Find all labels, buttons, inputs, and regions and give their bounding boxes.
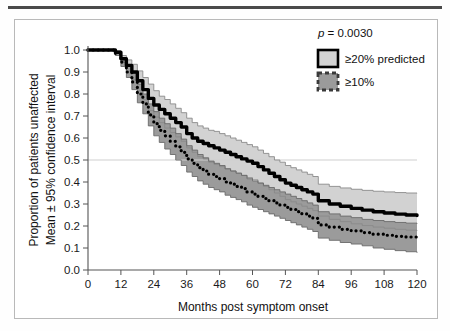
x-tick-label: 108: [375, 278, 394, 290]
x-tick-label: 48: [213, 278, 226, 290]
y-axis-title-line1: Proportion of patients unaffected: [27, 73, 41, 246]
y-tick-label: 0.1: [64, 242, 80, 254]
x-tick-label: 84: [312, 278, 325, 290]
p-value-number: = 0.0030: [324, 27, 372, 39]
y-tick-label: 0.7: [64, 110, 80, 122]
x-tick-label: 36: [180, 278, 193, 290]
figure-root: 0.00.10.20.30.40.50.60.70.80.91.0 012243…: [0, 0, 450, 331]
x-tick-label: 0: [85, 278, 91, 290]
y-tick-label: 0.2: [64, 220, 80, 232]
x-tick-label: 24: [147, 278, 160, 290]
x-tick-label: 120: [407, 278, 426, 290]
y-axis-title-line2: Mean ± 95% confidence interval: [44, 75, 58, 246]
y-tick-label: 0.0: [64, 264, 80, 276]
y-axis-tick-labels: 0.00.10.20.30.40.50.60.70.80.91.0: [64, 44, 81, 276]
x-tick-label: 72: [279, 278, 292, 290]
x-axis-tick-labels: 01224364860728496108120: [85, 278, 427, 290]
x-axis-ticks: [88, 270, 417, 275]
y-tick-label: 0.3: [64, 198, 80, 210]
legend: p = 0.0030 ≥20% predicted ≥10%: [317, 27, 425, 90]
legend-label-series-1: ≥10%: [345, 76, 374, 88]
y-tick-label: 0.5: [64, 154, 80, 166]
y-tick-label: 0.8: [64, 88, 80, 100]
x-axis-title: Months post symptom onset: [178, 300, 329, 314]
y-axis-ticks: [83, 50, 88, 270]
y-tick-label: 1.0: [64, 44, 80, 56]
legend-swatch-series-1: [318, 73, 338, 90]
y-tick-label: 0.9: [64, 66, 80, 78]
y-tick-label: 0.6: [64, 132, 80, 144]
x-tick-label: 60: [246, 278, 259, 290]
x-tick-label: 12: [115, 278, 128, 290]
p-value-annotation: p = 0.0030: [317, 27, 373, 39]
legend-swatch-series-0: [318, 50, 338, 67]
survival-chart: 0.00.10.20.30.40.50.60.70.80.91.0 012243…: [0, 0, 450, 331]
y-tick-label: 0.4: [64, 176, 81, 188]
legend-label-series-0: ≥20% predicted: [345, 53, 425, 65]
x-tick-label: 96: [345, 278, 358, 290]
